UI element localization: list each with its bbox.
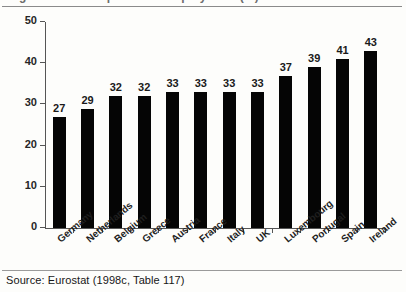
bar-value-label: 33 bbox=[223, 77, 235, 89]
bar-value-label: 27 bbox=[53, 102, 65, 114]
source-caption: Source: Eurostat (1998c, Table 117) bbox=[6, 274, 185, 286]
bar-group[interactable]: 27 bbox=[53, 22, 66, 228]
bar[interactable] bbox=[223, 92, 236, 228]
y-tick-label: 0 bbox=[31, 220, 37, 232]
bar-group[interactable]: 39 bbox=[308, 22, 321, 228]
bar[interactable] bbox=[53, 117, 66, 228]
bar[interactable] bbox=[138, 96, 151, 228]
y-tick-label: 40 bbox=[25, 55, 37, 67]
bar[interactable] bbox=[279, 76, 292, 228]
bar-value-label: 29 bbox=[81, 94, 93, 106]
bar-value-label: 32 bbox=[110, 81, 122, 93]
bar-group[interactable]: 43 bbox=[364, 22, 377, 228]
bar-value-label: 33 bbox=[251, 77, 263, 89]
y-tick-label: 10 bbox=[25, 179, 37, 191]
bar-value-label: 39 bbox=[308, 52, 320, 64]
bar[interactable] bbox=[251, 92, 264, 228]
bar-group[interactable]: 29 bbox=[81, 22, 94, 228]
bar-value-label: 32 bbox=[138, 81, 150, 93]
source-divider-rule bbox=[2, 270, 402, 271]
bar[interactable] bbox=[194, 92, 207, 228]
bar-group[interactable]: 33 bbox=[223, 22, 236, 228]
bar[interactable] bbox=[336, 59, 349, 228]
bar-value-label: 33 bbox=[195, 77, 207, 89]
bar-group[interactable]: 32 bbox=[138, 22, 151, 228]
bar[interactable] bbox=[166, 92, 179, 228]
bar-group[interactable]: 32 bbox=[109, 22, 122, 228]
bar-group[interactable]: 37 bbox=[279, 22, 292, 228]
y-tick-label: 50 bbox=[25, 14, 37, 26]
bar-group[interactable]: 33 bbox=[194, 22, 207, 228]
figure-title-clipped: Figure: Share of part-time employment (%… bbox=[8, 0, 259, 3]
bar-group[interactable]: 33 bbox=[251, 22, 264, 228]
y-tick-label: 30 bbox=[25, 96, 37, 108]
x-axis-tick bbox=[272, 229, 273, 233]
y-tick-label: 20 bbox=[25, 138, 37, 150]
bar-value-label: 41 bbox=[336, 44, 348, 56]
title-divider-rule bbox=[2, 6, 402, 7]
bar-group[interactable]: 41 bbox=[336, 22, 349, 228]
x-axis-category-label: UK bbox=[254, 227, 272, 245]
plot-area: 272932323333333337394143 bbox=[45, 22, 385, 228]
bar-value-label: 33 bbox=[166, 77, 178, 89]
figure-container: Figure: Share of part-time employment (%… bbox=[0, 0, 406, 292]
bar-value-label: 37 bbox=[280, 61, 292, 73]
bar-group[interactable]: 33 bbox=[166, 22, 179, 228]
bar-value-label: 43 bbox=[365, 36, 377, 48]
bar[interactable] bbox=[364, 51, 377, 228]
